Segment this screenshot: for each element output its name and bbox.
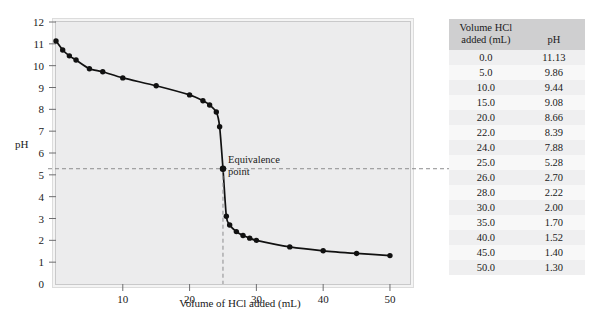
- table-row: 24.07.88: [449, 140, 585, 155]
- cell-volume: 15.0: [449, 95, 523, 110]
- y-axis-tick-label: 5: [22, 170, 44, 181]
- y-axis-tick-label: 0: [22, 279, 44, 290]
- titration-data-table: Volume HCl added (mL) pH 0.011.135.09.86…: [449, 19, 585, 275]
- table-row: 20.08.66: [449, 110, 585, 125]
- cell-ph: 2.70: [523, 170, 585, 185]
- cell-volume: 35.0: [449, 215, 523, 230]
- table-header-row: Volume HCl added (mL) pH: [449, 19, 585, 50]
- table-body: 0.011.135.09.8610.09.4415.09.0820.08.662…: [449, 50, 585, 275]
- cell-ph: 5.28: [523, 155, 585, 170]
- table-row: 5.09.86: [449, 65, 585, 80]
- table-row: 22.08.39: [449, 125, 585, 140]
- cell-ph: 9.44: [523, 80, 585, 95]
- table-row: 30.02.00: [449, 200, 585, 215]
- table-row: 0.011.13: [449, 50, 585, 65]
- cell-volume: 22.0: [449, 125, 523, 140]
- table-row: 35.01.70: [449, 215, 585, 230]
- cell-volume: 50.0: [449, 260, 523, 275]
- cell-volume: 25.0: [449, 155, 523, 170]
- y-axis-tick-label: 10: [22, 61, 44, 72]
- y-axis-tick-label: 3: [22, 214, 44, 225]
- table-row: 40.01.52: [449, 230, 585, 245]
- cell-ph: 9.08: [523, 95, 585, 110]
- y-axis-tick-label: 11: [22, 39, 44, 50]
- cell-volume: 26.0: [449, 170, 523, 185]
- equivalence-label-line2: point: [228, 166, 250, 177]
- cell-volume: 5.0: [449, 65, 523, 80]
- x-axis-tick-label: 30: [241, 294, 271, 305]
- cell-volume: 28.0: [449, 185, 523, 200]
- titration-figure: pH Volume of HCl added (mL) Equivalence …: [0, 0, 440, 316]
- cell-ph: 1.30: [523, 260, 585, 275]
- cell-ph: 11.13: [523, 50, 585, 65]
- x-axis-tick-label: 10: [108, 294, 138, 305]
- cell-volume: 10.0: [449, 80, 523, 95]
- x-axis-tick-label: 20: [175, 294, 205, 305]
- y-axis-tick-label: 8: [22, 104, 44, 115]
- cell-ph: 2.00: [523, 200, 585, 215]
- y-axis-tick-label: 1: [22, 257, 44, 268]
- table-row: 26.02.70: [449, 170, 585, 185]
- y-axis-tick-label: 12: [22, 17, 44, 28]
- table-row: 25.05.28: [449, 155, 585, 170]
- cell-ph: 1.40: [523, 245, 585, 260]
- table-row: 45.01.40: [449, 245, 585, 260]
- x-axis-tick-label: 40: [308, 294, 338, 305]
- header-volume-line1: Volume HCl: [460, 22, 513, 33]
- cell-volume: 40.0: [449, 230, 523, 245]
- cell-volume: 20.0: [449, 110, 523, 125]
- equivalence-label-line1: Equivalence: [228, 154, 280, 165]
- x-axis-tick-label: 50: [375, 294, 405, 305]
- y-axis-tick-label: 6: [22, 148, 44, 159]
- header-volume-line2: added (mL): [461, 34, 510, 45]
- cell-volume: 24.0: [449, 140, 523, 155]
- cell-volume: 45.0: [449, 245, 523, 260]
- cell-volume: 30.0: [449, 200, 523, 215]
- header-volume: Volume HCl added (mL): [449, 19, 523, 50]
- cell-ph: 1.52: [523, 230, 585, 245]
- cell-volume: 0.0: [449, 50, 523, 65]
- plot-panel: [55, 21, 411, 285]
- table-row: 28.02.22: [449, 185, 585, 200]
- equivalence-point-annotation: Equivalence point: [228, 154, 298, 178]
- cell-ph: 9.86: [523, 65, 585, 80]
- y-axis-tick-label: 4: [22, 192, 44, 203]
- cell-ph: 7.88: [523, 140, 585, 155]
- table-row: 10.09.44: [449, 80, 585, 95]
- y-axis-tick-label: 2: [22, 235, 44, 246]
- cell-ph: 8.66: [523, 110, 585, 125]
- cell-ph: 8.39: [523, 125, 585, 140]
- table-row: 50.01.30: [449, 260, 585, 275]
- table-row: 15.09.08: [449, 95, 585, 110]
- y-axis-tick-label: 9: [22, 83, 44, 94]
- cell-ph: 2.22: [523, 185, 585, 200]
- cell-ph: 1.70: [523, 215, 585, 230]
- header-ph: pH: [523, 19, 585, 50]
- y-axis-tick-label: 7: [22, 126, 44, 137]
